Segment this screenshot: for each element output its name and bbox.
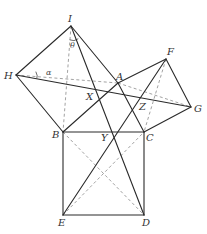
- label-alpha: α: [46, 68, 52, 77]
- line-FG: [166, 59, 191, 107]
- label-H: H: [3, 70, 13, 81]
- label-B: B: [51, 129, 59, 140]
- label-A: A: [115, 71, 123, 82]
- label-C: C: [146, 132, 154, 143]
- label-I: I: [67, 13, 73, 24]
- line-GC: [144, 107, 191, 132]
- geometry-diagram: I H A F G X Z B Y C E D θ α: [0, 0, 207, 234]
- line-HI: [16, 26, 71, 75]
- line-HG: [16, 75, 191, 107]
- label-Z: Z: [138, 101, 147, 112]
- alpha-arc: [36, 72, 37, 78]
- line-HB: [16, 75, 63, 132]
- label-Y: Y: [101, 132, 109, 143]
- label-F: F: [166, 46, 175, 57]
- label-X: X: [85, 91, 94, 102]
- line-IA: [71, 26, 118, 83]
- label-E: E: [57, 217, 66, 228]
- label-theta: θ: [70, 41, 75, 50]
- label-D: D: [141, 217, 150, 228]
- line-AF: [118, 59, 166, 83]
- label-G: G: [194, 103, 202, 114]
